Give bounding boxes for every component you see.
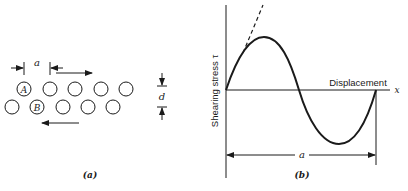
atom-a-label: A — [20, 85, 28, 95]
y-axis-label: Shearing stress τ — [209, 55, 220, 128]
panel-a: a A B d (a) — [5, 57, 167, 180]
bottom-row-atoms — [5, 100, 120, 114]
x-axis-symbol: x — [394, 85, 399, 95]
top-row-atoms — [17, 82, 133, 96]
panel-b: x Displacement Shearing stress τ a (b) — [209, 5, 400, 180]
period-label: a — [299, 149, 305, 160]
spacing-label: a — [34, 57, 40, 68]
tangent-line — [243, 5, 263, 53]
x-axis-label: Displacement — [329, 77, 387, 88]
figure: a A B d (a) — [0, 0, 408, 191]
panel-a-caption: (a) — [83, 170, 97, 180]
layer-gap-label: d — [159, 91, 165, 102]
panel-b-caption: (b) — [295, 170, 310, 180]
atom-b-label: B — [33, 103, 41, 113]
